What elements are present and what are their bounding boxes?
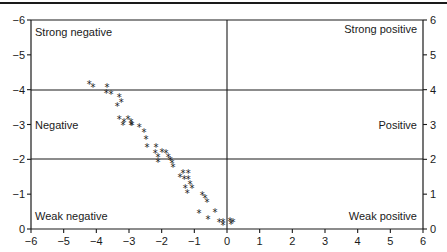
y-axis-left-ticks: 0−1−2−3−4−5−6 <box>12 14 31 235</box>
x-tick-label: 6 <box>420 235 426 247</box>
data-point-star: * <box>91 82 96 93</box>
x-axis-ticks: −6−5−4−3−2−10123456 <box>25 229 426 247</box>
label-weak-positive: Weak positive <box>349 210 417 222</box>
y-right-tick-label: 0 <box>430 223 436 235</box>
x-tick-label: 0 <box>224 235 230 247</box>
y-left-tick-label: −3 <box>12 119 25 131</box>
y-left-tick-label: −6 <box>12 14 25 26</box>
label-positive: Positive <box>378 119 417 131</box>
data-point-star: * <box>205 197 210 208</box>
data-point-star: * <box>109 89 114 100</box>
data-point-star: * <box>196 208 201 219</box>
x-tick-label: −6 <box>25 235 38 247</box>
y-right-tick-label: 3 <box>430 119 436 131</box>
y-left-tick-label: −1 <box>12 188 25 200</box>
data-point-star: * <box>221 220 226 231</box>
data-point-star: * <box>190 183 195 194</box>
reference-lines <box>31 20 423 229</box>
label-negative: Negative <box>35 119 78 131</box>
y-right-tick-label: 5 <box>430 49 436 61</box>
data-point-star: * <box>144 142 149 153</box>
data-point-star: * <box>171 162 176 173</box>
y-left-tick-label: −2 <box>12 153 25 165</box>
x-tick-label: 2 <box>289 235 295 247</box>
data-point-star: * <box>206 214 211 225</box>
x-tick-label: 4 <box>355 235 361 247</box>
data-point-star: * <box>129 120 134 131</box>
y-left-tick-label: 0 <box>19 223 25 235</box>
data-point-star: * <box>185 188 190 199</box>
y-left-tick-label: −5 <box>12 49 25 61</box>
x-tick-label: −3 <box>123 235 136 247</box>
scatter-chart: −6−5−4−3−2−10123456 0−1−2−3−4−5−6 012345… <box>0 0 447 252</box>
x-tick-label: 3 <box>322 235 328 247</box>
label-weak-negative: Weak negative <box>35 210 108 222</box>
data-point-star: * <box>115 101 120 112</box>
x-tick-label: −1 <box>188 235 201 247</box>
y-axis-right-ticks: 0123456 <box>423 14 436 235</box>
label-strong-positive: Strong positive <box>344 23 417 35</box>
label-strong-negative: Strong negative <box>35 26 112 38</box>
x-tick-label: −5 <box>57 235 70 247</box>
y-right-tick-label: 6 <box>430 14 436 26</box>
y-right-tick-label: 2 <box>430 153 436 165</box>
data-point-star: * <box>156 157 161 168</box>
x-tick-label: 1 <box>257 235 263 247</box>
y-left-tick-label: −4 <box>12 84 25 96</box>
y-right-tick-label: 4 <box>430 84 436 96</box>
data-points: ****************************************… <box>87 79 236 231</box>
x-tick-label: −4 <box>90 235 103 247</box>
x-tick-label: 5 <box>387 235 393 247</box>
x-tick-label: −2 <box>155 235 168 247</box>
data-point-star: * <box>228 219 233 230</box>
y-right-tick-label: 1 <box>430 188 436 200</box>
